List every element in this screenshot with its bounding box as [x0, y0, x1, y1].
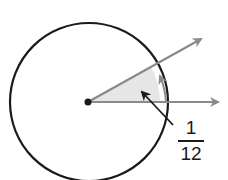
fraction-bar [178, 140, 204, 142]
fraction-numerator: 1 [176, 118, 206, 138]
fraction-label: 1 12 [176, 118, 206, 164]
fraction-denominator: 12 [176, 144, 206, 164]
center-point [85, 99, 92, 106]
